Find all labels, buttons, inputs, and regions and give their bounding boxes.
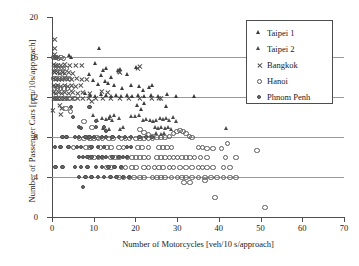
data-point [116, 68, 120, 72]
x-tick [219, 217, 220, 222]
data-point [63, 76, 69, 82]
data-point [196, 165, 202, 171]
data-point [104, 128, 108, 132]
data-point [87, 72, 91, 76]
data-point [154, 118, 158, 122]
data-point [109, 75, 113, 79]
data-point [105, 90, 110, 95]
data-point [85, 155, 89, 159]
scatter-chart-figure: Number of Passenger Cars [pcu/10s/approa… [0, 0, 359, 266]
data-point [171, 131, 177, 137]
data-point [73, 84, 78, 89]
data-point [101, 126, 105, 130]
data-point [54, 76, 60, 82]
data-point [79, 126, 83, 130]
data-point [87, 155, 93, 161]
data-point [167, 155, 173, 161]
data-point [118, 127, 122, 131]
data-point [87, 91, 92, 96]
data-point [141, 155, 147, 161]
data-point [81, 119, 87, 125]
data-point [141, 118, 145, 122]
data-point [57, 76, 63, 82]
data-point [96, 155, 100, 159]
data-point [60, 76, 66, 82]
data-point [137, 155, 143, 161]
data-point [97, 46, 101, 50]
triangle-icon [254, 44, 264, 54]
data-point [104, 66, 108, 70]
data-point [104, 155, 108, 159]
data-point [70, 90, 75, 95]
data-point [99, 89, 104, 94]
legend-label: Taipei 1 [267, 29, 295, 38]
data-point [53, 91, 58, 96]
x-tick-label: 0 [39, 224, 65, 233]
data-point [56, 90, 61, 95]
data-point [171, 165, 177, 171]
data-point [71, 115, 75, 119]
data-point [80, 90, 85, 95]
data-point [65, 77, 70, 82]
data-point [221, 165, 227, 171]
y-tick-label: 16 [14, 53, 38, 62]
data-point [117, 116, 121, 120]
legend-item-bangkok: Bangkok [247, 57, 332, 73]
data-point [123, 165, 129, 171]
data-point [100, 155, 106, 161]
data-point [69, 77, 74, 82]
data-point [63, 106, 69, 112]
data-point [141, 88, 145, 92]
data-point [134, 65, 138, 69]
data-point [100, 165, 104, 169]
data-point [101, 68, 105, 72]
data-point [162, 131, 166, 135]
data-point [53, 77, 58, 82]
data-point [91, 155, 97, 161]
data-point [223, 155, 229, 161]
data-point [79, 165, 83, 169]
data-point [129, 165, 135, 171]
x-tick [302, 217, 303, 222]
data-point [69, 83, 74, 88]
data-point [156, 165, 162, 171]
data-point [106, 165, 110, 169]
data-point [174, 119, 178, 123]
data-point [62, 71, 67, 76]
data-point [135, 103, 139, 107]
data-point [164, 145, 170, 151]
data-point [141, 130, 147, 136]
data-point [204, 146, 210, 152]
data-point [137, 84, 141, 88]
data-point [129, 83, 133, 87]
data-point [161, 117, 165, 121]
data-point [125, 155, 131, 161]
legend-label: Phnom Penh [267, 93, 310, 102]
data-point [171, 115, 175, 119]
data-point [89, 145, 93, 149]
data-point [171, 155, 177, 161]
data-point [154, 155, 160, 161]
data-point [146, 155, 152, 161]
y-tick [47, 17, 52, 18]
x-tick [344, 217, 345, 222]
data-point [110, 118, 114, 122]
data-point [200, 145, 206, 151]
data-point [180, 129, 186, 135]
data-point [79, 63, 84, 68]
data-point [159, 125, 163, 129]
data-point [118, 67, 122, 71]
data-point [175, 155, 181, 161]
y-axis-title: Number of Passenger Cars [pcu/10s/approa… [27, 16, 37, 226]
x-tick-label: 60 [289, 224, 315, 233]
data-point [121, 155, 125, 159]
x-tick [177, 217, 178, 222]
data-point [84, 77, 89, 82]
data-point [83, 145, 89, 151]
legend-item-taipei-1: Taipei 1 [247, 25, 332, 41]
data-point [137, 127, 143, 133]
data-point [164, 104, 168, 108]
data-point [196, 145, 202, 151]
data-point [121, 125, 125, 129]
data-point [99, 73, 103, 77]
